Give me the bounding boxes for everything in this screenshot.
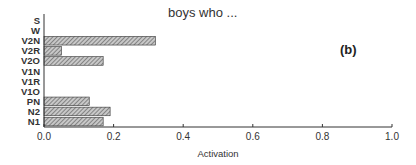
x-axis-label: Activation xyxy=(0,148,416,159)
bar-n2 xyxy=(44,107,110,116)
x-tick-label: 0.2 xyxy=(107,131,121,142)
bar-v2n xyxy=(44,36,155,45)
bar-chart-plot: SWV2NV2RV2OV1NV1RV1OPNN2N1 0.00.20.40.60… xyxy=(0,0,416,165)
bar-n1 xyxy=(44,117,103,126)
x-tick-label: 1.0 xyxy=(385,131,399,142)
y-tick-label: N1 xyxy=(28,116,41,127)
bars-group xyxy=(44,36,155,125)
bar-pn xyxy=(44,97,89,106)
x-tick-label: 0.6 xyxy=(246,131,260,142)
x-tick-label: 0.4 xyxy=(176,131,190,142)
x-tick-label: 0.8 xyxy=(315,131,329,142)
x-tick-label: 0.0 xyxy=(37,131,51,142)
y-axis-labels: SWV2NV2RV2OV1NV1RV1OPNN2N1 xyxy=(21,15,41,127)
bar-v2o xyxy=(44,57,103,66)
bar-v2r xyxy=(44,47,61,56)
